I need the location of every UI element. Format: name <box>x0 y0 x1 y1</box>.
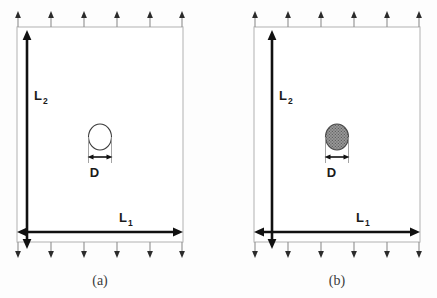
panel-b-width-label: L <box>356 210 364 225</box>
panel-a-caption: (a) <box>92 273 108 289</box>
figure-container: L 2 L 1 D (a) <box>0 0 437 298</box>
panel-a-width-label: L <box>119 210 127 225</box>
panel-b-width-label-subscript: 1 <box>365 218 370 228</box>
panel-a-height-label: L <box>34 88 42 103</box>
panel-a-width-label-subscript: 1 <box>128 218 133 228</box>
panel-b-height-label: L <box>279 88 287 103</box>
panel-a-diameter-label: D <box>90 165 99 180</box>
panel-a-height-label-subscript: 2 <box>43 96 48 106</box>
panel-b-diameter-label: D <box>327 165 336 180</box>
panel-b-inclusion-circle <box>326 124 349 150</box>
schematic-figure: L 2 L 1 D (a) <box>0 0 437 298</box>
panel-a-inclusion-circle <box>89 124 112 150</box>
panel-b-height-label-subscript: 2 <box>288 96 293 106</box>
panel-b-caption: (b) <box>329 273 346 289</box>
